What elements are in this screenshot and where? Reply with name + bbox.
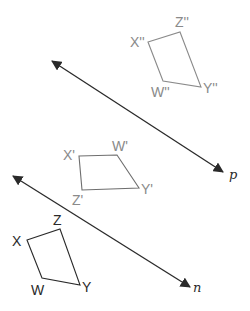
vertex-label-W-prime: W' bbox=[112, 138, 128, 154]
line-p-label: p bbox=[229, 167, 238, 182]
vertex-label-Z: Z bbox=[53, 212, 62, 228]
line-n-label: n bbox=[193, 280, 201, 295]
reflection-diagram: p n X Z Y W X' W' Y' Z' X'' Z'' Y'' W'' bbox=[0, 0, 250, 311]
quadrilateral-second-image bbox=[148, 32, 201, 87]
vertex-label-Y: Y bbox=[82, 279, 92, 295]
vertex-label-Z-prime: Z' bbox=[72, 192, 83, 208]
vertex-label-X: X bbox=[12, 233, 22, 249]
vertex-label-W: W bbox=[31, 282, 45, 298]
quadrilateral-original bbox=[27, 229, 80, 285]
vertex-label-X-double-prime: X'' bbox=[130, 34, 145, 50]
vertex-label-X-prime: X' bbox=[63, 147, 75, 163]
vertex-label-W-double-prime: W'' bbox=[151, 84, 170, 100]
vertex-label-Y-double-prime: Y'' bbox=[203, 80, 218, 96]
vertex-label-Y-prime: Y' bbox=[141, 181, 153, 197]
vertex-label-Z-double-prime: Z'' bbox=[175, 14, 189, 30]
quadrilateral-first-image bbox=[79, 155, 139, 190]
